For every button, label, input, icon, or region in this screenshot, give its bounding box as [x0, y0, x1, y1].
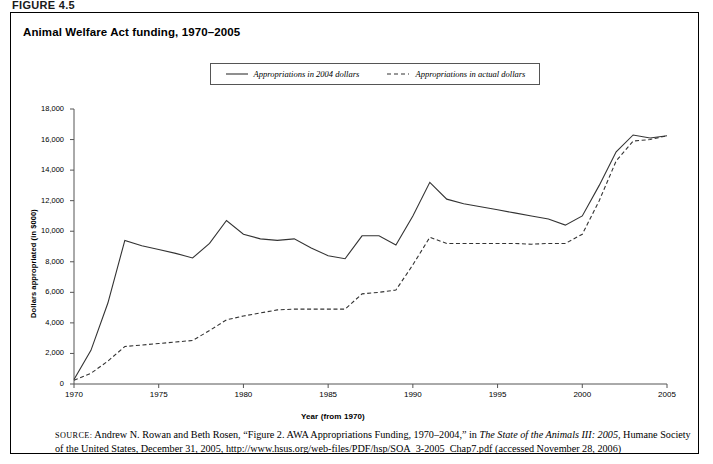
y-tick-label: 14,000 [22, 165, 64, 174]
y-tick-label: 4,000 [22, 318, 64, 327]
x-tick-label: 1980 [223, 390, 263, 399]
source-text-1: Andrew N. Rowan and Beth Rosen, “Figure … [92, 429, 479, 440]
y-tick-label: 2,000 [22, 348, 64, 357]
chart-plot-area [11, 13, 700, 455]
x-tick-label: 1970 [54, 390, 94, 399]
x-tick-label: 1995 [478, 390, 518, 399]
source-prefix: SOURCE: [55, 431, 92, 440]
y-tick-label: 0 [22, 379, 64, 388]
x-tick-label: 1990 [393, 390, 433, 399]
figure-box: Animal Welfare Act funding, 1970–2005 Ap… [10, 12, 699, 454]
x-tick-label: 1975 [139, 390, 179, 399]
y-tick-label: 18,000 [22, 104, 64, 113]
x-tick-label: 2000 [562, 390, 602, 399]
y-axis-ticks [70, 109, 74, 384]
series-line-actual-dollars [74, 136, 667, 380]
y-tick-label: 16,000 [22, 135, 64, 144]
x-tick-label: 1985 [308, 390, 348, 399]
y-tick-label: 12,000 [22, 196, 64, 205]
source-note: SOURCE: Andrew N. Rowan and Beth Rosen, … [55, 428, 695, 455]
x-axis-ticks [74, 384, 667, 388]
source-italic-title: The State of the Animals III: 2005 [480, 429, 618, 440]
x-tick-label: 2005 [647, 390, 687, 399]
figure-label: FIGURE 4.5 [12, 0, 75, 10]
y-tick-label: 10,000 [22, 226, 64, 235]
y-tick-label: 6,000 [22, 287, 64, 296]
y-tick-label: 8,000 [22, 257, 64, 266]
